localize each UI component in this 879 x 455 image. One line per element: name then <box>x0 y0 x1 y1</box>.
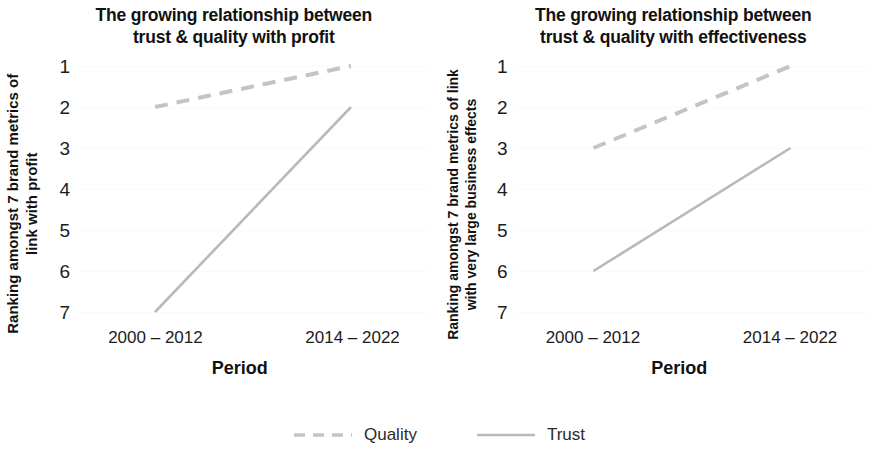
legend-item-quality[interactable]: Quality <box>294 425 417 445</box>
y-tick-7: 7 <box>59 303 70 322</box>
y-axis-ticks-profit: 1234567 <box>48 58 74 320</box>
panel-title-line-1: The growing relationship between <box>478 4 870 26</box>
series-line-trust <box>593 148 790 271</box>
series-line-quality <box>155 66 351 107</box>
x-axis-ticks-effectiveness: 2000 – 2012 2014 – 2022 <box>516 328 868 352</box>
series-lines-effectiveness <box>516 58 868 320</box>
x-tick-period-1: 2000 – 2012 <box>546 328 641 348</box>
y-axis-ticks-effectiveness: 1234567 <box>486 58 512 320</box>
x-tick-period-2: 2014 – 2022 <box>305 328 400 348</box>
panel-title-line-2: trust & quality with profit <box>38 26 430 48</box>
y-tick-2: 2 <box>497 98 508 117</box>
legend-label: Trust <box>547 425 585 445</box>
y-tick-5: 5 <box>59 221 70 240</box>
series-lines-profit <box>78 58 428 320</box>
legend-item-trust[interactable]: Trust <box>477 425 585 445</box>
legend-marker-dashed <box>294 433 352 437</box>
chart-legend: QualityTrust <box>0 414 879 455</box>
chart-panel-effectiveness: The growing relationship between trust &… <box>440 0 879 408</box>
series-line-quality <box>593 66 790 148</box>
chart-panels: The growing relationship between trust &… <box>0 0 879 408</box>
y-tick-6: 6 <box>59 262 70 281</box>
plot-wrap-profit: 1234567 <box>48 58 428 320</box>
y-tick-2: 2 <box>59 98 70 117</box>
plot-wrap-effectiveness: 1234567 <box>486 58 868 320</box>
panel-title-profit: The growing relationship between trust &… <box>38 4 430 49</box>
legend-marker-solid <box>477 433 535 437</box>
x-axis-ticks-profit: 2000 – 2012 2014 – 2022 <box>78 328 430 352</box>
x-axis-label-effectiveness: Period <box>488 358 872 379</box>
y-tick-3: 3 <box>59 139 70 158</box>
y-tick-5: 5 <box>497 221 508 240</box>
plot-area-profit <box>78 58 428 320</box>
chart-panel-profit: The growing relationship between trust &… <box>0 0 440 408</box>
y-tick-4: 4 <box>497 180 508 199</box>
y-tick-7: 7 <box>497 303 508 322</box>
y-tick-4: 4 <box>59 180 70 199</box>
y-axis-label-line-2: link with profit <box>23 74 42 334</box>
plot-area-effectiveness <box>516 58 868 320</box>
y-axis-label-line-1: Ranking amongst 7 brand metrics of link <box>445 69 463 340</box>
y-tick-6: 6 <box>497 262 508 281</box>
y-tick-1: 1 <box>497 57 508 76</box>
x-tick-period-2: 2014 – 2022 <box>743 328 838 348</box>
legend-label: Quality <box>364 425 417 445</box>
x-axis-label-profit: Period <box>48 358 432 379</box>
series-line-trust <box>155 107 351 312</box>
y-axis-label-line-1: Ranking amongst 7 brand metrics of <box>4 74 23 334</box>
y-axis-label-effectiveness: Ranking amongst 7 brand metrics of link … <box>440 0 486 408</box>
panel-title-effectiveness: The growing relationship between trust &… <box>478 4 870 49</box>
y-axis-label-line-2: with very large business effects <box>463 69 481 340</box>
y-tick-3: 3 <box>497 139 508 158</box>
y-tick-1: 1 <box>59 57 70 76</box>
panel-title-line-1: The growing relationship between <box>38 4 430 26</box>
panel-title-line-2: trust & quality with effectiveness <box>478 26 870 48</box>
chart-figure: The growing relationship between trust &… <box>0 0 879 455</box>
x-tick-period-1: 2000 – 2012 <box>108 328 203 348</box>
y-axis-label-profit: Ranking amongst 7 brand metrics of link … <box>0 0 46 408</box>
